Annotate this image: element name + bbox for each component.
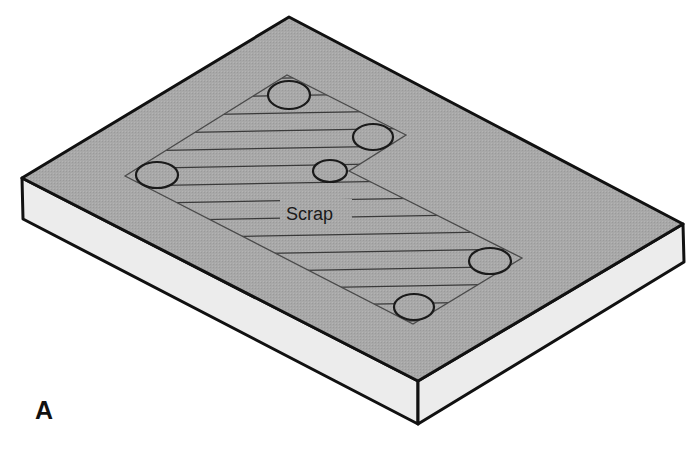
hole-circle	[136, 162, 178, 188]
scrap-label: Scrap	[286, 204, 333, 224]
hole-circle	[268, 81, 310, 109]
panel-label: A	[35, 398, 53, 423]
scrap-plate-diagram: Scrap	[0, 0, 694, 449]
hole-circle	[394, 294, 434, 320]
hole-circle	[353, 124, 393, 150]
hole-circle	[313, 160, 347, 182]
hole-circle	[469, 248, 511, 274]
